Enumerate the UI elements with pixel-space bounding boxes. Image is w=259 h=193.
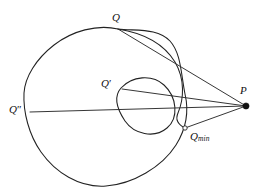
label-q-double-prime-text: Q xyxy=(9,103,17,115)
inner-loop xyxy=(117,78,175,134)
point-marker-qmin xyxy=(183,126,187,130)
label-q-min: Qmin xyxy=(190,131,210,143)
diagram-canvas xyxy=(0,0,259,193)
label-q-prime: Q′ xyxy=(101,78,111,89)
label-q-double-prime-mark: ″ xyxy=(17,103,21,115)
label-q-min-text: Q xyxy=(190,130,198,142)
label-q-min-subscript: min xyxy=(198,134,210,143)
label-p-text: P xyxy=(240,84,247,96)
label-q-prime-text: Q xyxy=(101,77,109,89)
ray-P-Qmin xyxy=(185,106,246,128)
ray-P-Qp xyxy=(122,89,246,106)
outer-curve xyxy=(24,27,187,186)
point-marker-p xyxy=(243,103,249,109)
label-q-prime-mark: ′ xyxy=(109,77,111,89)
label-p: P xyxy=(240,85,247,96)
geometric-figure: Q Q′ Q″ Qmin P xyxy=(0,0,259,193)
label-q-text: Q xyxy=(112,11,120,23)
label-q: Q xyxy=(112,12,120,23)
label-q-double-prime: Q″ xyxy=(9,104,21,115)
ray-P-Qpp xyxy=(30,106,246,112)
